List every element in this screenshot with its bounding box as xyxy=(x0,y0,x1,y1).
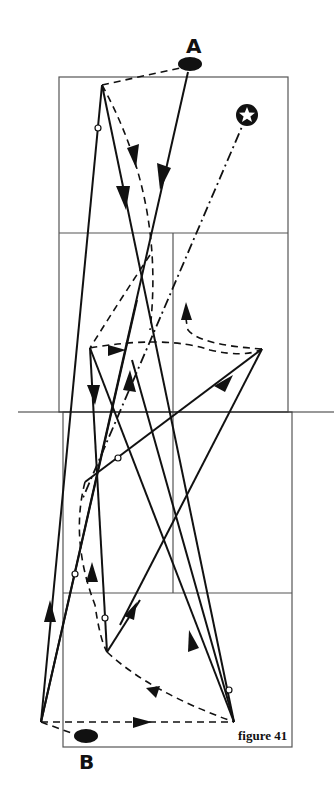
movement-path xyxy=(90,255,150,348)
contact-dot xyxy=(226,687,232,693)
player-b-marker xyxy=(74,729,98,743)
arrow-down-icon xyxy=(157,163,171,190)
badminton-court-diagram xyxy=(0,0,334,801)
movement-path xyxy=(107,652,234,722)
player-a-label: A xyxy=(186,34,201,58)
shot-line xyxy=(102,85,234,722)
contact-dots xyxy=(72,125,232,693)
contact-dot xyxy=(102,615,108,621)
start-star-icon xyxy=(236,104,258,126)
court-lines xyxy=(18,77,334,747)
player-b-label: B xyxy=(79,750,94,774)
arrow-up-icon xyxy=(44,600,56,622)
contact-dot xyxy=(115,455,121,461)
arrowheads xyxy=(44,144,233,728)
shot-line xyxy=(132,360,234,722)
movement-path xyxy=(186,305,262,349)
shot-line xyxy=(90,348,234,722)
arrow-up-icon xyxy=(188,630,199,652)
figure-caption: figure 41 xyxy=(238,728,287,744)
movement-paths xyxy=(41,68,262,734)
player-a-marker xyxy=(178,57,202,71)
contact-dot xyxy=(72,571,78,577)
movement-path xyxy=(41,722,74,734)
arrow-up-icon xyxy=(86,562,98,582)
shot-lines xyxy=(41,72,262,722)
arrow-up-icon xyxy=(123,370,136,392)
contact-dot xyxy=(95,125,101,131)
shot-line xyxy=(41,300,137,722)
